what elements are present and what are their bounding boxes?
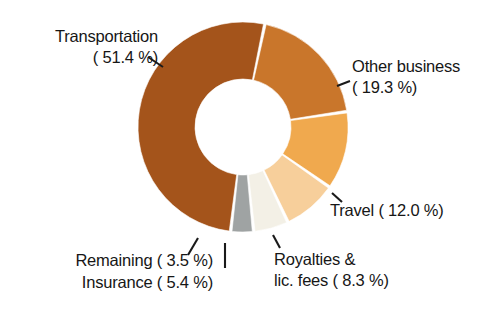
slice-label-royalties: Royalties & lic. fees ( 8.3 %) bbox=[274, 249, 389, 290]
slice-label-other-business-value: ( 19.3 %) bbox=[352, 77, 460, 98]
slice-label-remaining-text: Remaining ( 3.5 %) bbox=[28, 250, 213, 271]
slice-label-insurance: Insurance ( 5.4 %) bbox=[28, 272, 213, 293]
slice-label-travel: Travel ( 12.0 %) bbox=[330, 200, 444, 221]
slice-label-other-business: Other business ( 19.3 %) bbox=[352, 56, 460, 97]
slice-label-royalties-value: lic. fees ( 8.3 %) bbox=[274, 270, 389, 291]
slice-label-insurance-text: Insurance ( 5.4 %) bbox=[28, 272, 213, 293]
slice-other-business[interactable] bbox=[254, 25, 347, 120]
donut-slices bbox=[138, 22, 348, 232]
slice-label-royalties-name: Royalties & bbox=[274, 249, 389, 270]
slice-label-travel-text: Travel ( 12.0 %) bbox=[330, 200, 444, 221]
slice-label-other-business-name: Other business bbox=[352, 56, 460, 77]
slice-label-transportation-name: Transportation bbox=[18, 26, 158, 47]
slice-label-remaining: Remaining ( 3.5 %) bbox=[28, 250, 213, 271]
donut-chart: Transportation ( 51.4 %) Other business … bbox=[0, 0, 489, 318]
slice-label-transportation: Transportation ( 51.4 %) bbox=[18, 26, 158, 67]
leader-line-royalties bbox=[273, 235, 280, 248]
slice-label-transportation-value: ( 51.4 %) bbox=[18, 47, 158, 68]
